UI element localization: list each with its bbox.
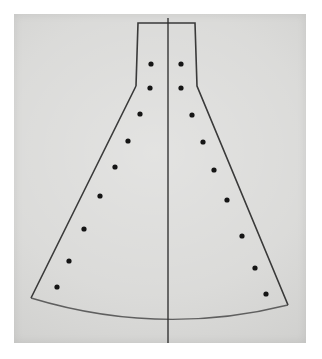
marker-dot-right-8 (252, 265, 257, 270)
marker-dot-right-3 (189, 112, 194, 117)
marker-dot-left-8 (66, 258, 71, 263)
marker-dot-right-9 (263, 291, 268, 296)
marker-dot-left-3 (137, 111, 142, 116)
marker-dot-left-9 (54, 284, 59, 289)
marker-dot-left-2 (147, 85, 152, 90)
figure-root (0, 0, 322, 359)
marker-dot-right-6 (224, 197, 229, 202)
marker-dot-left-5 (112, 164, 117, 169)
marker-dot-right-4 (200, 139, 205, 144)
left-marker-column (54, 61, 153, 289)
marker-dot-right-5 (211, 167, 216, 172)
marker-dot-right-7 (239, 233, 244, 238)
marker-dot-left-1 (148, 61, 153, 66)
marker-dot-left-7 (81, 226, 86, 231)
marker-dot-right-1 (178, 61, 183, 66)
hem-group (31, 298, 288, 319)
marker-dot-left-4 (125, 138, 130, 143)
right-marker-column (178, 61, 268, 296)
hem-curve-path (31, 298, 288, 319)
pattern-drawing (0, 0, 322, 359)
marker-dot-right-2 (178, 85, 183, 90)
marker-dot-left-6 (97, 193, 102, 198)
